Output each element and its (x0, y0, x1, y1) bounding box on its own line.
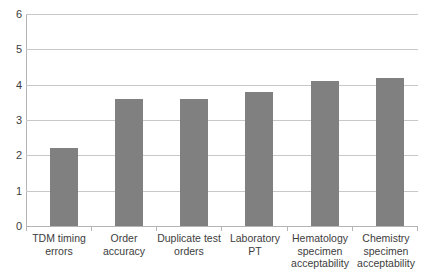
x-label-hematology-specimen-acceptability: Hematology specimen acceptability (287, 232, 353, 270)
x-tick-3 (221, 227, 222, 231)
bar-chart: 6 5 4 3 2 1 0 TDM timing errors Order ac… (0, 0, 426, 280)
x-label-laboratory-pt: Laboratory PT (222, 232, 288, 257)
gridline-2 (26, 155, 418, 156)
x-axis-labels: TDM timing errors Order accuracy Duplica… (26, 232, 418, 280)
bar-tdm-timing-errors (50, 148, 78, 226)
gridline-1 (26, 191, 418, 192)
x-label-tdm-timing-errors: TDM timing errors (26, 232, 92, 257)
x-label-chemistry-specimen-acceptability: Chemistry specimen acceptability (353, 232, 419, 270)
x-label-order-accuracy: Order accuracy (92, 232, 156, 257)
gridline-5 (26, 49, 418, 50)
y-tick-label-3: 3 (0, 115, 22, 126)
x-tick-2 (156, 227, 157, 231)
x-tick-4 (287, 227, 288, 231)
bar-order-accuracy (115, 99, 143, 226)
gridline-3 (26, 120, 418, 121)
x-tick-1 (91, 227, 92, 231)
x-tick-6 (417, 227, 418, 231)
gridline-4 (26, 85, 418, 86)
y-axis-labels: 6 5 4 3 2 1 0 (0, 0, 22, 280)
x-label-duplicate-test-orders: Duplicate test orders (156, 232, 222, 257)
bar-chemistry-specimen-acceptability (376, 78, 404, 226)
x-tick-5 (352, 227, 353, 231)
y-tick-label-1: 1 (0, 186, 22, 197)
bar-hematology-specimen-acceptability (311, 81, 339, 226)
x-tick-0 (26, 227, 27, 231)
y-tick-label-2: 2 (0, 150, 22, 161)
y-tick-label-0: 0 (0, 221, 22, 232)
y-tick-label-5: 5 (0, 44, 22, 55)
bar-duplicate-test-orders (180, 99, 208, 226)
gridline-0 (26, 226, 418, 227)
gridline-6 (26, 14, 418, 15)
plot-area (26, 14, 418, 226)
y-tick-label-6: 6 (0, 9, 22, 20)
y-tick-label-4: 4 (0, 80, 22, 91)
bar-laboratory-pt (245, 92, 273, 226)
